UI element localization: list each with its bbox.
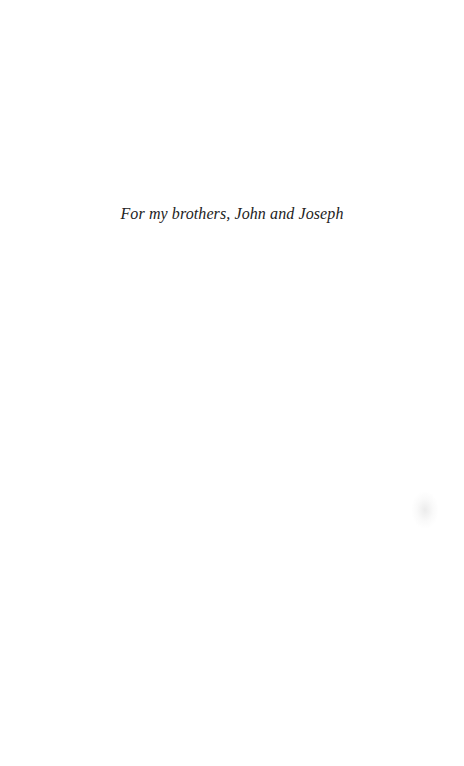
dedication-text: For my brothers, John and Joseph bbox=[0, 203, 464, 225]
book-page: For my brothers, John and Joseph bbox=[0, 0, 464, 766]
scan-artifact bbox=[412, 492, 438, 528]
